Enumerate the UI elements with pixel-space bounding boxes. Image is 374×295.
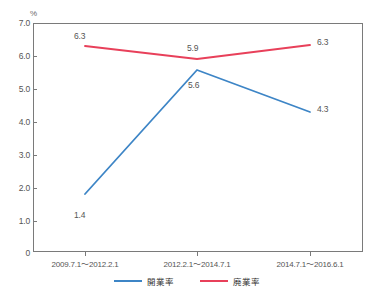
y-tick-label-6: 6.0 <box>6 51 30 61</box>
data-label-haigyo-1: 6.3 <box>74 31 85 41</box>
y-tick-label-2: 2.0 <box>6 183 30 193</box>
x-tick-label-3: 2014.7.1〜2016.6.1 <box>250 258 370 269</box>
y-tick-label-5: 5.0 <box>6 84 30 94</box>
x-tick-label-1: 2009.7.1〜2012.2.1 <box>25 258 145 269</box>
y-tick-label-1: 1.0 <box>6 216 30 226</box>
y-tick-mark-1 <box>33 221 37 222</box>
legend-label-haigyo: 廃業率 <box>233 275 260 287</box>
data-label-haigyo-2: 5.9 <box>187 43 198 53</box>
y-tick-mark-2 <box>33 188 37 189</box>
y-tick-mark-6 <box>33 56 37 57</box>
chart-title <box>30 0 330 7</box>
y-tick-label-0: 0 <box>6 248 30 258</box>
legend-swatch-blue-icon <box>114 280 142 282</box>
data-label-kaigyo-2: 5.6 <box>188 80 199 90</box>
y-axis-unit-label: % <box>30 9 37 18</box>
legend-label-kaigyo: 開業率 <box>147 275 174 287</box>
x-tick-mark-2 <box>197 252 198 256</box>
y-tick-mark-3 <box>33 155 37 156</box>
x-tick-mark-1 <box>85 252 86 256</box>
legend-item-haigyo[interactable]: 廃業率 <box>200 275 260 287</box>
y-tick-mark-4 <box>33 122 37 123</box>
data-label-kaigyo-3: 4.3 <box>317 104 328 114</box>
legend-swatch-red-icon <box>200 280 228 282</box>
data-label-haigyo-3: 6.3 <box>317 37 328 47</box>
y-tick-mark-5 <box>33 89 37 90</box>
legend-item-kaigyo[interactable]: 開業率 <box>114 275 174 287</box>
chart-figure: % 7.0 6.0 5.0 4.0 3.0 2.0 1.0 0 2009.7.1… <box>0 0 374 295</box>
y-tick-label-4: 4.0 <box>6 117 30 127</box>
y-tick-label-3: 3.0 <box>6 150 30 160</box>
x-tick-label-2: 2012.2.1〜2014.7.1 <box>137 258 257 269</box>
x-tick-mark-3 <box>310 252 311 256</box>
y-tick-label-7: 7.0 <box>6 18 30 28</box>
data-label-kaigyo-1: 1.4 <box>74 210 85 220</box>
chart-legend: 開業率 廃業率 <box>0 275 374 287</box>
